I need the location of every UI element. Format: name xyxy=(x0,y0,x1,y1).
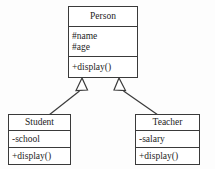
operations-compartment-teacher: +display() xyxy=(136,148,199,164)
operation-item: +display() xyxy=(72,62,134,73)
hollow-triangle-arrowhead-teacher xyxy=(114,78,126,91)
attribute-item: -salary xyxy=(139,134,196,145)
attributes-compartment-student: -school xyxy=(9,131,70,147)
operation-item: +display() xyxy=(12,151,67,162)
class-name-student: Student xyxy=(9,115,70,131)
attribute-item: -school xyxy=(12,134,67,145)
class-name-teacher: Teacher xyxy=(136,115,199,131)
attributes-compartment-teacher: -salary xyxy=(136,131,199,147)
operations-compartment-student: +display() xyxy=(9,148,70,164)
generalization-teacher-to-person[interactable] xyxy=(114,78,158,115)
generalization-student-to-person[interactable] xyxy=(49,78,88,115)
class-name-person: Person xyxy=(69,7,137,27)
uml-class-diagram: Person #name #age +display() Student -sc… xyxy=(0,0,215,169)
attribute-item: #name xyxy=(72,31,134,42)
operations-compartment-person: +display() xyxy=(69,57,137,77)
hollow-triangle-arrowhead-student xyxy=(76,78,88,91)
attributes-compartment-person: #name #age xyxy=(69,27,137,57)
generalization-line-teacher xyxy=(124,91,159,115)
generalization-line-student xyxy=(49,91,80,115)
uml-class-teacher[interactable]: Teacher -salary +display() xyxy=(135,114,200,165)
uml-class-student[interactable]: Student -school +display() xyxy=(8,114,71,165)
uml-class-person[interactable]: Person #name #age +display() xyxy=(68,6,138,78)
operation-item: +display() xyxy=(139,151,196,162)
attribute-item: #age xyxy=(72,42,134,53)
